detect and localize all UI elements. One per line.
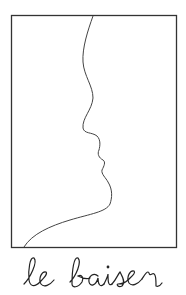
frame: [12, 16, 177, 248]
face-profile-line: [24, 16, 112, 247]
